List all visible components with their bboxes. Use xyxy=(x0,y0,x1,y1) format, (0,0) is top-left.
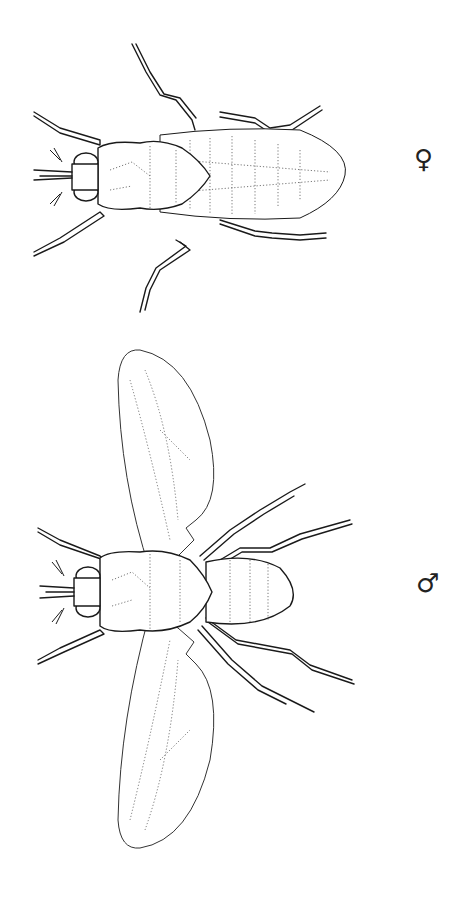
male-abdomen xyxy=(206,558,293,624)
female-symbol: ♀ xyxy=(414,146,433,172)
female-proboscis xyxy=(34,170,72,180)
male-symbol: ♂ xyxy=(416,570,439,596)
male-thorax xyxy=(100,551,212,631)
male-fly xyxy=(38,350,354,848)
illustration-canvas xyxy=(0,0,464,898)
male-wing-lower xyxy=(118,612,214,848)
male-proboscis xyxy=(40,586,74,598)
male-wing-upper xyxy=(118,350,214,570)
female-fly xyxy=(34,44,345,312)
